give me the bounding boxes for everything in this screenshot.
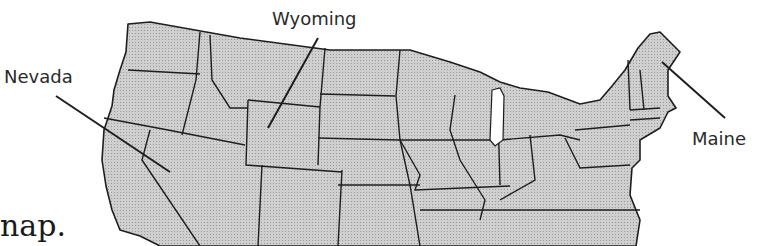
us-map	[0, 0, 770, 246]
lake-michigan	[490, 88, 504, 146]
caption-fragment: nap.	[0, 208, 66, 243]
label-wyoming: Wyoming	[272, 8, 357, 29]
label-maine: Maine	[692, 128, 746, 149]
label-nevada: Nevada	[4, 66, 73, 87]
